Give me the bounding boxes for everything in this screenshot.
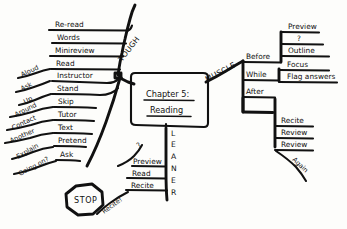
tough-modifier-label: Aloud xyxy=(19,64,39,79)
leaner-item-label: Preview xyxy=(133,157,162,166)
branch-tough-label: TOUGH xyxy=(116,35,142,64)
tough-item-label: Re-read xyxy=(55,20,84,29)
muscle-after-item-1[interactable]: Review xyxy=(275,128,313,139)
leaner-letter-3: N xyxy=(171,164,177,173)
branch-tough[interactable]: TOUGH Re-read Words Minireview Read Alou… xyxy=(5,5,142,178)
leaner-item-1[interactable]: Read xyxy=(127,169,166,179)
tough-item-label: Text xyxy=(57,123,73,132)
muscle-phase-label: Before xyxy=(246,52,271,61)
core-title-line1: Chapter 5: xyxy=(146,89,189,99)
stop-sign[interactable]: STOP xyxy=(66,184,103,215)
leaner-letter-2: A xyxy=(171,152,177,161)
tough-item-label: Ask xyxy=(60,150,74,159)
tough-item-label: Words xyxy=(57,33,80,42)
muscle-while-item-0[interactable]: Focus xyxy=(279,60,329,71)
leaner-item-label: Recite xyxy=(131,181,154,190)
stop-sign-label: STOP xyxy=(74,196,98,205)
muscle-before-item-2[interactable]: Outline xyxy=(281,46,329,57)
muscle-sub-item-label: Recite xyxy=(281,116,304,125)
tough-item-label: Tutor xyxy=(57,110,77,119)
muscle-phase-before[interactable]: Before Preview ? Outline xyxy=(243,22,329,63)
tough-item-0[interactable]: Re-read xyxy=(49,20,132,31)
muscle-before-item-0[interactable]: Preview xyxy=(281,22,319,33)
tough-item-label: Skip xyxy=(58,97,74,106)
tough-item-label: Pretend xyxy=(58,136,87,145)
branch-muscle[interactable]: MUSCLE Before Preview ? Outline xyxy=(204,22,337,181)
core-title-line2: Reading xyxy=(150,105,183,115)
muscle-while-item-1[interactable]: Flag answers xyxy=(279,72,337,83)
tough-item-label: Instructor xyxy=(57,71,94,80)
muscle-phase-while[interactable]: While Focus Flag answers xyxy=(243,60,337,83)
muscle-sub-item-label: Review xyxy=(281,140,307,149)
muscle-phase-label: After xyxy=(246,87,265,96)
tough-modifier-label: Ask xyxy=(19,80,33,93)
muscle-phase-after[interactable]: After Recite Review Review Again xyxy=(243,87,313,181)
branch-muscle-label: MUSCLE xyxy=(204,60,237,83)
mind-map-canvas: Chapter 5: Reading TOUGH Re-read Words M… xyxy=(0,0,347,229)
tough-item-2[interactable]: Minireview xyxy=(50,46,123,57)
muscle-sub-item-label: Focus xyxy=(287,60,308,69)
tough-item-1[interactable]: Words xyxy=(52,33,126,44)
leaner-letter-1: E xyxy=(171,140,176,149)
muscle-sub-item-label: Review xyxy=(281,128,307,137)
tough-item-label: Minireview xyxy=(55,46,95,55)
muscle-before-item-1[interactable]: ? xyxy=(281,34,323,45)
tough-item-label: Stand xyxy=(57,84,79,93)
muscle-sub-item-label: Outline xyxy=(288,46,315,55)
muscle-sub-item-label: Preview xyxy=(288,22,317,31)
central-node[interactable]: Chapter 5: Reading xyxy=(131,73,208,127)
leaner-item-2[interactable]: Recite xyxy=(126,181,167,191)
leaner-letter-4: E xyxy=(171,176,176,185)
leaner-recite-note: Recite! xyxy=(100,196,123,216)
leaner-letter-0: L xyxy=(171,129,176,138)
muscle-sub-item-label: Flag answers xyxy=(287,72,336,81)
branch-leaner[interactable]: L E A N E R ? Preview Read Recite Recite… xyxy=(97,124,177,216)
muscle-phase-label: While xyxy=(246,70,267,79)
muscle-sub-item-label: ? xyxy=(297,34,301,43)
leaner-letter-5: R xyxy=(171,188,177,197)
leaner-item-label: Read xyxy=(132,169,151,178)
muscle-after-item-2[interactable]: Review xyxy=(275,140,313,151)
muscle-after-item-0[interactable]: Recite xyxy=(275,116,313,127)
tough-item-label: Read xyxy=(56,59,75,68)
leaner-item-0[interactable]: Preview xyxy=(132,157,166,167)
